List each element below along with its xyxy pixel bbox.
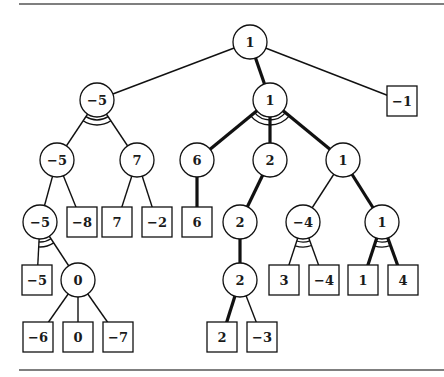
tree-node-circle: 1 [365,205,399,239]
tree-node-circle: 0 [61,263,95,297]
node-value: 3 [279,273,288,288]
node-value: −6 [28,330,48,345]
node-value: 4 [398,273,407,288]
tree-node-circle: −5 [80,83,114,117]
node-value: −5 [30,215,50,230]
tree-node-circle: −4 [286,205,320,239]
tree-leaf-square: −4 [309,265,339,295]
tree-node-circle: 1 [326,143,360,177]
tree-leaf-square: 4 [388,265,418,295]
node-value: 0 [73,273,82,288]
tree-leaf-square: −6 [23,322,53,352]
tree-leaf-square: 2 [207,322,237,352]
node-value: 0 [73,330,82,345]
and-arc [83,121,111,125]
tree-edge [97,42,250,100]
node-value: 6 [192,153,201,168]
tree-leaf-square: −2 [142,207,172,237]
tree-node-circle: 6 [180,143,214,177]
node-value: 2 [265,153,274,168]
tree-node-circle: 7 [120,143,154,177]
node-value: −5 [27,273,47,288]
node-value: −3 [252,330,272,345]
node-value: −2 [147,215,167,230]
node-value: −4 [293,215,313,230]
tree-leaf-square: 3 [269,265,299,295]
node-value: −5 [87,93,107,108]
tree-leaf-square: −1 [387,86,417,116]
node-value: 1 [338,153,347,168]
node-value: −4 [314,273,334,288]
tree-leaf-square: −3 [247,322,277,352]
node-value: 6 [192,215,201,230]
node-value: 2 [235,273,244,288]
node-value: 1 [265,93,274,108]
tree-node-circle: −5 [40,143,74,177]
tree-leaf-square: −7 [103,322,133,352]
node-value: 1 [245,35,254,50]
tree-leaf-square: 6 [182,207,212,237]
game-tree-diagram: 1−51−1−57621−5−87−262−41−5023−414−60−72−… [0,0,444,377]
tree-node-circle: 1 [233,25,267,59]
and-arc [297,241,310,242]
and-arc [374,246,390,247]
node-value: 2 [235,215,244,230]
and-arc [295,246,311,247]
node-value: −8 [72,215,92,230]
node-value: −5 [47,153,67,168]
tree-node-circle: 2 [223,205,257,239]
node-value: 7 [112,215,121,230]
tree-leaf-square: 1 [348,265,378,295]
tree-leaf-square: 0 [63,322,93,352]
node-value: 1 [358,273,367,288]
tree-node-circle: 2 [253,143,287,177]
node-value: −1 [392,94,412,109]
tree-node-circle: 1 [253,83,287,117]
tree-node-circle: 2 [223,263,257,297]
node-value: 1 [377,215,386,230]
node-value: 7 [132,153,141,168]
node-value: −7 [108,330,128,345]
node-value: 2 [217,330,226,345]
tree-leaf-square: −5 [22,265,52,295]
tree-leaf-square: −8 [67,207,97,237]
tree-leaf-square: 7 [102,207,132,237]
tree-nodes: 1−51−1−57621−5−87−262−41−5023−414−60−72−… [22,25,418,352]
and-arc [39,243,54,247]
and-arc [376,241,389,242]
tree-node-circle: −5 [23,205,57,239]
